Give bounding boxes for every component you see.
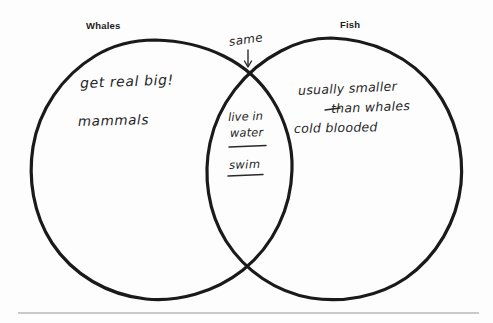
venn-diagram-canvas: Whales Fish get real big! mammals usuall… — [0, 0, 493, 323]
note-shared-swim: swim — [229, 157, 261, 172]
note-whales-mammals: mammals — [78, 111, 149, 129]
note-shared-live-in: live in — [228, 109, 264, 124]
divider-line-water — [229, 146, 266, 148]
note-fish-cold-blooded: cold blooded — [294, 119, 378, 136]
set-label-fish: Fish — [340, 19, 360, 30]
note-shared-water: water — [230, 125, 264, 140]
set-label-whales: Whales — [86, 20, 120, 31]
down-arrow-icon — [245, 50, 252, 67]
underline-swim — [228, 175, 263, 177]
note-fish-than-whales: than whales — [331, 98, 411, 116]
